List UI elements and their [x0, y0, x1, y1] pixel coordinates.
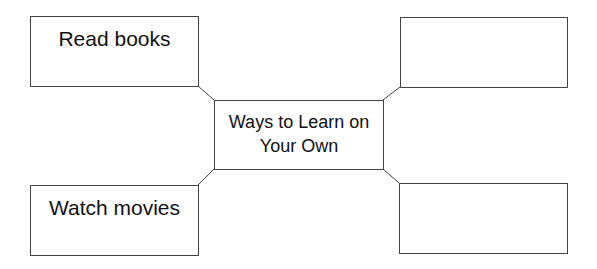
node-bottom-right[interactable] — [399, 183, 568, 254]
node-bottom-left[interactable]: Watch movies — [30, 185, 199, 256]
connector-bottom-left — [198, 169, 214, 185]
connector-bottom-right — [383, 169, 399, 183]
connector-top-right — [383, 87, 400, 100]
center-label: Ways to Learn on Your Own — [215, 110, 383, 158]
node-top-left[interactable]: Read books — [30, 16, 199, 87]
connector-top-left — [198, 86, 214, 100]
center-node[interactable]: Ways to Learn on Your Own — [214, 100, 384, 170]
node-top-right[interactable] — [400, 17, 568, 88]
node-label: Read books — [31, 27, 198, 51]
node-label: Watch movies — [31, 196, 198, 220]
